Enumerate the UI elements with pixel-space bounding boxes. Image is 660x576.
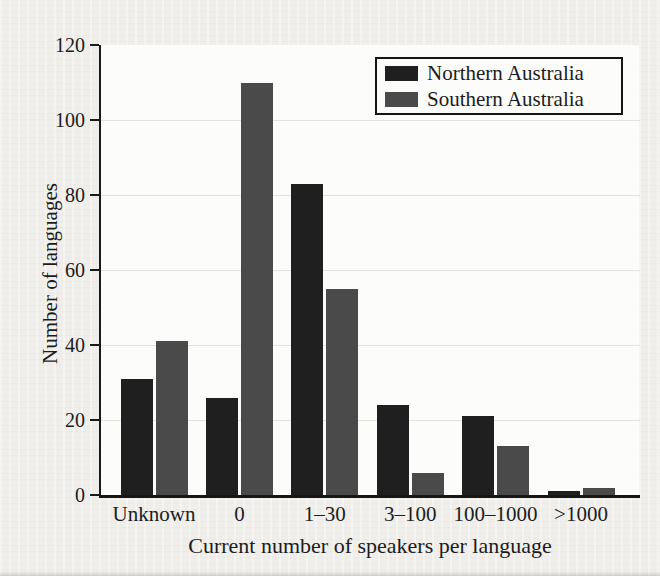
bar-northern-4 (377, 405, 409, 495)
y-tick-60 (90, 269, 99, 271)
bar-northern-3 (291, 184, 323, 495)
legend-label-southern: Southern Australia (427, 88, 584, 110)
bar-northern-5 (462, 416, 494, 495)
y-tick-label-100: 100 (33, 110, 85, 130)
bar-southern-5 (497, 446, 529, 495)
y-tick-label-20: 20 (33, 410, 85, 430)
y-tick-40 (90, 344, 99, 346)
gridline-80 (101, 195, 640, 196)
x-axis-line (99, 495, 640, 498)
gridline-60 (101, 270, 640, 271)
legend-entry-northern: Northern Australia (385, 62, 621, 84)
bar-southern-3 (326, 289, 358, 495)
y-tick-20 (90, 419, 99, 421)
x-axis-title: Current number of speakers per language (101, 533, 639, 559)
y-tick-0 (90, 494, 99, 496)
scanned-book-figure: 020406080100120Unknown01–303–100100–1000… (0, 0, 660, 576)
y-tick-label-0: 0 (33, 485, 85, 505)
y-tick-100 (90, 119, 99, 121)
bar-northern-2 (206, 398, 238, 496)
legend-entry-southern: Southern Australia (385, 88, 621, 110)
y-tick-120 (90, 44, 99, 46)
x-tick-label-6: >1000 (516, 503, 646, 525)
legend-label-northern: Northern Australia (427, 62, 584, 84)
bar-southern-2 (241, 83, 273, 496)
bar-chart: 020406080100120Unknown01–303–100100–1000… (0, 0, 660, 576)
bar-southern-1 (156, 341, 188, 495)
bar-southern-6 (583, 488, 615, 496)
gridline-100 (101, 120, 640, 121)
y-axis-title: Number of languages (38, 164, 63, 384)
legend-swatch-southern-icon (385, 92, 418, 107)
legend-swatch-northern-icon (385, 66, 418, 81)
y-axis-line (99, 45, 101, 498)
bar-northern-1 (121, 379, 153, 495)
legend: Northern Australia Southern Australia (375, 57, 623, 115)
y-tick-80 (90, 194, 99, 196)
y-tick-label-120: 120 (33, 35, 85, 55)
bar-southern-4 (412, 473, 444, 496)
